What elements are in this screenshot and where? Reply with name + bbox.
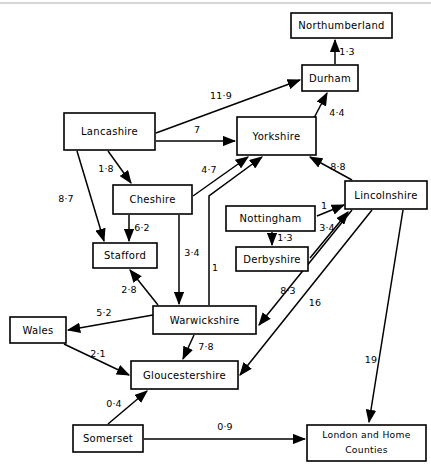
node-wales[interactable]: Wales	[10, 317, 66, 343]
edge-label-lincolnshire-yorkshire: 8·8	[330, 161, 346, 172]
node-nottingham[interactable]: Nottingham	[226, 206, 315, 231]
edge-label-cheshire-warwickshire: 3·4	[184, 247, 200, 258]
node-label-lincolnshire: Lincolnshire	[354, 190, 417, 201]
node-label-london-line1: London and Home	[322, 429, 410, 440]
edge-label-lincolnshire-gloucestershire: 16	[309, 297, 322, 308]
node-lincolnshire[interactable]: Lincolnshire	[345, 181, 427, 209]
node-label-london-line2: Counties	[345, 444, 388, 455]
flow-diagram-canvas: NorthumberlandDurhamLancashireYorkshireC…	[0, 0, 431, 470]
node-label-derbyshire: Derbyshire	[243, 254, 301, 265]
edge-label-stafford-warwickshire: 2·8	[121, 284, 137, 295]
edge-label-lancashire-yorkshire: 7	[194, 124, 200, 135]
node-label-gloucestershire: Gloucestershire	[143, 370, 226, 381]
node-lancashire[interactable]: Lancashire	[64, 113, 155, 150]
node-london[interactable]: London and HomeCounties	[307, 425, 426, 461]
edge-label-warwickshire-yorkshire: 1	[212, 262, 218, 273]
node-label-durham: Durham	[309, 73, 351, 84]
node-label-wales: Wales	[22, 325, 53, 336]
edge-label-durham-northumberland: 1·3	[339, 46, 355, 57]
node-cheshire[interactable]: Cheshire	[113, 185, 192, 214]
node-label-lancashire: Lancashire	[81, 126, 138, 137]
node-durham[interactable]: Durham	[302, 65, 358, 91]
node-somerset[interactable]: Somerset	[73, 425, 143, 452]
node-label-cheshire: Cheshire	[129, 194, 175, 205]
edge-label-wales-gloucestershire: 2·1	[90, 348, 106, 359]
edge-label-somerset-london: 0·9	[217, 421, 233, 432]
node-derbyshire[interactable]: Derbyshire	[236, 247, 308, 271]
edge-label-lancashire-cheshire: 1·8	[98, 163, 114, 174]
edge-yorkshire-durham	[314, 93, 327, 118]
node-label-stafford: Stafford	[104, 250, 146, 261]
node-label-yorkshire: Yorkshire	[252, 131, 301, 142]
edge-label-lancashire-stafford: 8·7	[58, 193, 74, 204]
edge-label-lincolnshire-london: 19	[365, 354, 378, 365]
node-warwickshire[interactable]: Warwickshire	[153, 306, 256, 334]
edge-label-somerset-gloucestershire: 0·4	[106, 398, 122, 409]
nodes-layer: NorthumberlandDurhamLancashireYorkshireC…	[10, 13, 427, 461]
edge-label-nottingham-derbyshire: 1·3	[277, 232, 293, 243]
node-gloucestershire[interactable]: Gloucestershire	[131, 361, 238, 389]
edge-warwickshire-gloucestershire	[183, 335, 194, 359]
node-label-warwickshire: Warwickshire	[170, 315, 240, 326]
edge-label-warwickshire-wales: 5·2	[96, 307, 112, 318]
edge-label-cheshire-stafford: 6·2	[134, 222, 150, 233]
edge-label-derbyshire-lincolnshire: 3·4	[319, 222, 335, 233]
edge-label-lancashire-durham: 11·9	[210, 90, 232, 101]
flow-diagram-svg: NorthumberlandDurhamLancashireYorkshireC…	[0, 0, 431, 470]
node-yorkshire[interactable]: Yorkshire	[237, 117, 316, 155]
edge-label-warwickshire-gloucestershire: 7·8	[198, 341, 214, 352]
node-label-somerset: Somerset	[83, 433, 133, 444]
node-label-northumberland: Northumberland	[298, 20, 384, 31]
edge-lincolnshire-gloucestershire	[240, 210, 372, 375]
node-northumberland[interactable]: Northumberland	[291, 13, 392, 38]
edge-label-cheshire-yorkshire: 4·7	[201, 164, 217, 175]
edge-lincolnshire-london	[369, 210, 403, 422]
node-stafford[interactable]: Stafford	[93, 243, 157, 268]
edge-label-nottingham-lincolnshire: 1	[321, 200, 327, 211]
edge-label-lincolnshire-warwickshire: 8·3	[280, 285, 296, 296]
node-label-nottingham: Nottingham	[239, 213, 301, 224]
edge-label-yorkshire-durham: 4·4	[329, 107, 345, 118]
